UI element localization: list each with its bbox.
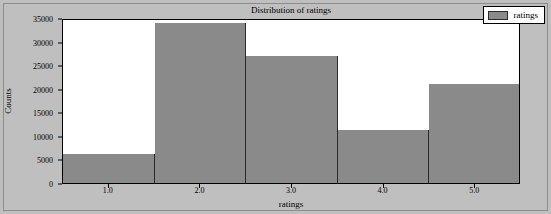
bar-1.0 xyxy=(63,154,155,183)
y-tick-label: 0 xyxy=(0,180,53,189)
y-tick-label: 30000 xyxy=(0,38,53,47)
y-tick-label: 35000 xyxy=(0,15,53,24)
plot-area xyxy=(62,19,520,184)
y-tick-mark xyxy=(58,136,62,137)
y-tick-label: 15000 xyxy=(0,109,53,118)
legend: ratings xyxy=(483,6,546,24)
x-tick-mark xyxy=(291,184,292,188)
y-tick-label: 20000 xyxy=(0,85,53,94)
legend-swatch-ratings xyxy=(488,11,508,20)
y-tick-mark xyxy=(58,19,62,20)
chart-title: Distribution of ratings xyxy=(62,3,520,17)
bar-5.0 xyxy=(429,84,519,183)
bar-4.0 xyxy=(338,130,430,183)
x-tick-mark xyxy=(108,184,109,188)
bar-3.0 xyxy=(246,56,338,183)
x-axis-label: ratings xyxy=(279,199,304,209)
y-tick-label: 25000 xyxy=(0,62,53,71)
y-tick-mark xyxy=(58,160,62,161)
x-tick-mark xyxy=(383,184,384,188)
y-tick-mark xyxy=(58,184,62,185)
y-tick-label: 5000 xyxy=(0,156,53,165)
bar-2.0 xyxy=(155,23,247,183)
y-tick-mark xyxy=(58,89,62,90)
legend-label-ratings: ratings xyxy=(514,10,539,20)
x-tick-mark xyxy=(474,184,475,188)
bars-container xyxy=(63,20,519,183)
y-tick-mark xyxy=(58,42,62,43)
y-tick-label: 10000 xyxy=(0,132,53,141)
y-tick-mark xyxy=(58,113,62,114)
y-tick-mark xyxy=(58,66,62,67)
figure-canvas: Distribution of ratings Counts ratings 0… xyxy=(0,0,551,214)
x-tick-mark xyxy=(199,184,200,188)
